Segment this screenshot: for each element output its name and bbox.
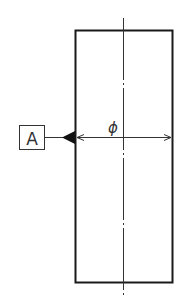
drawing-canvas: A ϕ [0, 0, 184, 301]
datum-triangle-icon [62, 131, 75, 144]
datum-label: A [26, 129, 38, 149]
diameter-symbol: ϕ [108, 119, 118, 137]
